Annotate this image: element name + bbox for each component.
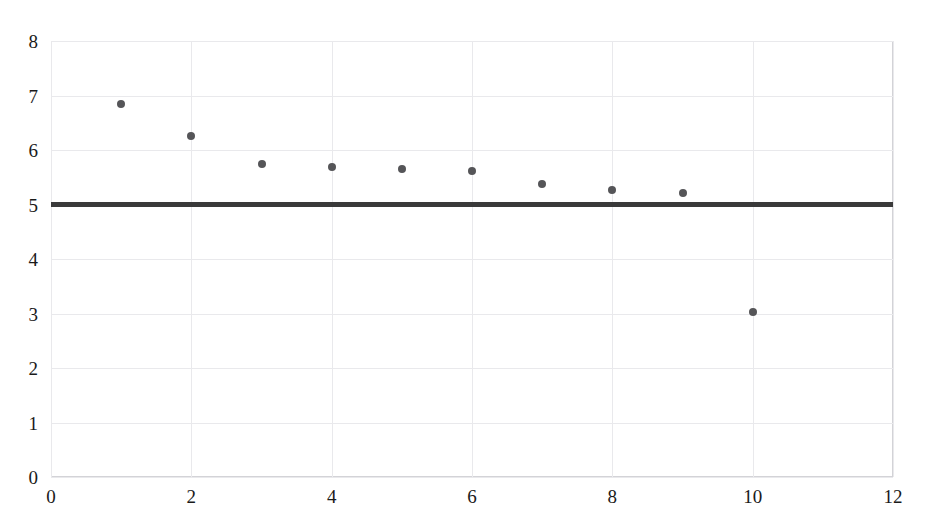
gridline-x-1	[191, 41, 192, 477]
data-point	[749, 308, 757, 316]
x-tick-label: 2	[187, 487, 197, 506]
y-tick-label: 0	[29, 468, 39, 487]
gridline-x-0	[51, 41, 52, 477]
y-tick-label: 7	[29, 86, 39, 105]
y-tick-label: 4	[29, 250, 39, 269]
gridline-x-5	[753, 41, 754, 477]
x-tick-label: 0	[46, 487, 56, 506]
gridline-x-4	[612, 41, 613, 477]
gridline-x-3	[472, 41, 473, 477]
data-point	[328, 163, 336, 171]
y-tick-label: 5	[29, 195, 39, 214]
data-point	[538, 180, 546, 188]
plot-area	[51, 41, 893, 477]
gridline-x-6	[893, 41, 894, 477]
x-tick-label: 8	[608, 487, 618, 506]
data-point	[258, 160, 266, 168]
x-tick-label: 6	[467, 487, 477, 506]
y-tick-label: 2	[29, 359, 39, 378]
data-point	[468, 167, 476, 175]
x-tick-label: 10	[743, 487, 762, 506]
y-tick-label: 1	[29, 413, 39, 432]
x-axis-tick-labels: 024681012	[51, 487, 893, 517]
data-point	[679, 189, 687, 197]
y-tick-label: 3	[29, 304, 39, 323]
scatter-chart: 012345678 024681012	[0, 0, 926, 532]
data-point	[187, 132, 195, 140]
data-point	[117, 100, 125, 108]
gridline-x-2	[332, 41, 333, 477]
x-tick-label: 4	[327, 487, 337, 506]
y-tick-label: 6	[29, 141, 39, 160]
x-tick-label: 12	[884, 487, 903, 506]
y-tick-label: 8	[29, 32, 39, 51]
gridline-y-0	[51, 477, 893, 478]
y-axis-tick-labels: 012345678	[0, 41, 38, 477]
data-point	[608, 186, 616, 194]
reference-line	[51, 202, 893, 207]
data-point	[398, 165, 406, 173]
